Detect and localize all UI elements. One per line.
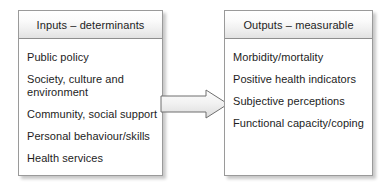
outputs-box-body: Morbidity/mortality Positive health indi…	[225, 39, 372, 130]
list-item: Society, culture and environment	[27, 73, 162, 99]
block-arrow-icon	[160, 86, 230, 122]
list-item: Health services	[27, 152, 162, 165]
outputs-box: Outputs – measurable Morbidity/mortality…	[224, 10, 373, 176]
inputs-box-title: Inputs – determinants	[37, 19, 145, 31]
inputs-box-body: Public policy Society, culture and envir…	[19, 39, 162, 165]
list-item: Subjective perceptions	[233, 95, 372, 108]
outputs-box-title: Outputs – measurable	[243, 19, 353, 31]
list-item: Positive health indicators	[233, 73, 372, 86]
outputs-box-header: Outputs – measurable	[225, 11, 372, 39]
list-item: Morbidity/mortality	[233, 51, 372, 64]
list-item: Personal behaviour/skills	[27, 130, 162, 143]
inputs-box-header: Inputs – determinants	[19, 11, 162, 39]
list-item: Public policy	[27, 51, 162, 64]
inputs-box: Inputs – determinants Public policy Soci…	[18, 10, 163, 176]
list-item: Community, social support	[27, 108, 162, 121]
diagram-canvas: Inputs – determinants Public policy Soci…	[0, 0, 390, 186]
list-item: Functional capacity/coping	[233, 117, 372, 130]
